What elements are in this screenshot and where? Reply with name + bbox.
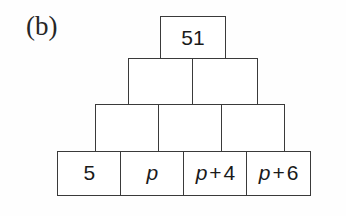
pyramid-row-2 xyxy=(128,58,258,105)
cell-variable: p xyxy=(147,161,159,185)
cell-constant: 4 xyxy=(224,161,236,185)
pyramid-cell[interactable]: p xyxy=(120,151,185,196)
figure-screenshot: (b) 51 xyxy=(0,0,346,216)
cell-value: p xyxy=(147,161,159,185)
pyramid-cell[interactable] xyxy=(192,58,258,105)
pyramid-cell[interactable] xyxy=(128,58,194,105)
cell-value: p + 4 xyxy=(196,161,236,185)
pyramid-cell[interactable] xyxy=(158,104,222,152)
pyramid-cell[interactable] xyxy=(221,104,285,152)
pyramid-cell[interactable]: 5 xyxy=(57,151,122,196)
pyramid-row-3 xyxy=(95,104,285,152)
cell-value: p + 6 xyxy=(259,161,299,185)
cell-constant: 6 xyxy=(287,161,299,185)
addition-pyramid: 51 xyxy=(0,0,346,216)
cell-variable: p xyxy=(196,161,208,185)
pyramid-cell[interactable]: p + 6 xyxy=(246,151,311,196)
cell-operator: + xyxy=(207,161,223,185)
cell-variable: p xyxy=(259,161,271,185)
cell-operator: + xyxy=(270,161,286,185)
cell-value: 51 xyxy=(181,26,204,50)
pyramid-row-1: 51 xyxy=(160,16,226,59)
pyramid-cell[interactable]: p + 4 xyxy=(183,151,248,196)
pyramid-cell[interactable] xyxy=(95,104,159,152)
pyramid-cell[interactable]: 51 xyxy=(160,16,226,59)
cell-constant: 5 xyxy=(83,161,95,185)
cell-value: 5 xyxy=(83,161,95,185)
pyramid-row-4: 5 p p + 4 p + 6 xyxy=(57,151,311,196)
